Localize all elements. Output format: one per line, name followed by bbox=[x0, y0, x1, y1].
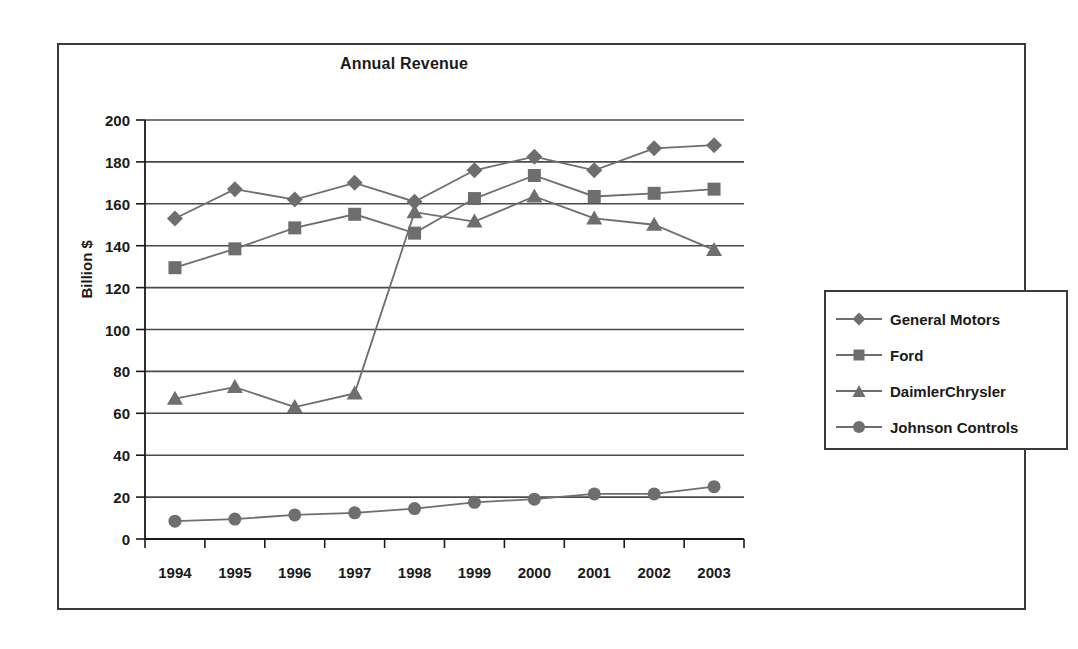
data-point bbox=[287, 192, 303, 208]
series-johnson-controls bbox=[168, 480, 720, 528]
triangle-marker-icon bbox=[836, 381, 882, 401]
data-point bbox=[466, 162, 482, 178]
data-point bbox=[347, 385, 363, 399]
x-tick-label: 1995 bbox=[218, 564, 251, 581]
y-tick-label: 100 bbox=[105, 322, 130, 339]
x-tick-marks bbox=[145, 539, 744, 548]
x-tick-label: 1998 bbox=[398, 564, 431, 581]
legend: General Motors Ford DaimlerC bbox=[824, 290, 1068, 450]
y-tick-label: 40 bbox=[113, 447, 130, 464]
y-tick-label: 120 bbox=[105, 280, 130, 297]
data-series bbox=[167, 137, 722, 528]
series-ford bbox=[168, 169, 720, 274]
data-point bbox=[708, 480, 721, 493]
data-point bbox=[168, 261, 181, 274]
data-point bbox=[528, 493, 541, 506]
data-point bbox=[348, 506, 361, 519]
legend-item[interactable]: Ford bbox=[826, 337, 1066, 373]
gridlines bbox=[136, 120, 744, 539]
data-point bbox=[408, 502, 421, 515]
x-tick-label: 2001 bbox=[578, 564, 611, 581]
data-point bbox=[586, 210, 602, 224]
y-tick-label: 180 bbox=[105, 154, 130, 171]
y-tick-label: 200 bbox=[105, 112, 130, 129]
legend-label-daimlerchrysler: DaimlerChrysler bbox=[890, 383, 1006, 400]
data-point bbox=[168, 515, 181, 528]
data-point bbox=[648, 187, 661, 200]
series-general-motors bbox=[167, 137, 722, 226]
legend-item[interactable]: DaimlerChrysler bbox=[826, 373, 1066, 409]
x-tick-label: 2003 bbox=[697, 564, 730, 581]
screenshot-root: Annual Revenue Billion $ 020406080100120… bbox=[0, 0, 1078, 649]
y-tick-label: 80 bbox=[113, 363, 130, 380]
legend-label-general-motors: General Motors bbox=[890, 311, 1000, 328]
data-point bbox=[586, 162, 602, 178]
data-point bbox=[228, 242, 241, 255]
square-marker-icon bbox=[836, 345, 882, 365]
circle-marker-icon bbox=[836, 417, 882, 437]
legend-item[interactable]: Johnson Controls bbox=[826, 409, 1066, 445]
data-point bbox=[348, 208, 361, 221]
y-tick-label: 140 bbox=[105, 238, 130, 255]
diamond-marker-icon bbox=[836, 309, 882, 329]
x-tick-label: 1996 bbox=[278, 564, 311, 581]
data-point bbox=[288, 508, 301, 521]
data-point bbox=[347, 175, 363, 191]
data-point bbox=[228, 513, 241, 526]
legend-label-johnson-controls: Johnson Controls bbox=[890, 419, 1018, 436]
x-tick-label: 1999 bbox=[458, 564, 491, 581]
data-point bbox=[468, 192, 481, 205]
x-tick-labels: 1994199519961997199819992000200120022003 bbox=[158, 564, 730, 581]
data-point bbox=[588, 190, 601, 203]
data-point bbox=[708, 183, 721, 196]
chart-frame: Annual Revenue Billion $ 020406080100120… bbox=[57, 43, 1026, 610]
data-point bbox=[167, 210, 183, 226]
x-tick-label: 1997 bbox=[338, 564, 371, 581]
y-tick-label: 20 bbox=[113, 489, 130, 506]
data-point bbox=[646, 140, 662, 156]
data-point bbox=[227, 181, 243, 197]
x-tick-label: 1994 bbox=[158, 564, 192, 581]
x-tick-label: 2002 bbox=[637, 564, 670, 581]
x-tick-label: 2000 bbox=[518, 564, 551, 581]
data-point bbox=[706, 137, 722, 153]
y-tick-label: 60 bbox=[113, 405, 130, 422]
data-point bbox=[528, 169, 541, 182]
data-point bbox=[648, 487, 661, 500]
data-point bbox=[706, 242, 722, 256]
y-tick-label: 160 bbox=[105, 196, 130, 213]
legend-label-ford: Ford bbox=[890, 347, 923, 364]
data-point bbox=[588, 487, 601, 500]
series-daimlerchrysler bbox=[167, 188, 722, 413]
data-point bbox=[468, 496, 481, 509]
y-tick-labels: 020406080100120140160180200 bbox=[105, 112, 130, 548]
data-point bbox=[288, 221, 301, 234]
legend-item[interactable]: General Motors bbox=[826, 301, 1066, 337]
data-point bbox=[526, 188, 542, 202]
data-point bbox=[407, 204, 423, 218]
y-tick-label: 0 bbox=[122, 531, 130, 548]
data-point bbox=[227, 379, 243, 393]
